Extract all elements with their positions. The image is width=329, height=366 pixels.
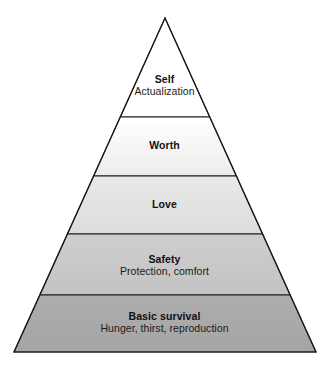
pyramid-tier-self[interactable] — [120, 18, 209, 117]
pyramid-tier-love[interactable] — [68, 176, 263, 234]
pyramid-tier-worth[interactable] — [94, 117, 237, 176]
pyramid-tier-safety[interactable] — [40, 234, 290, 295]
pyramid-diagram — [0, 0, 329, 366]
pyramid-tier-basic-survival[interactable] — [14, 295, 316, 352]
hierarchy-of-needs-pyramid: Self Actualization Worth Love Safety Pro… — [0, 0, 329, 366]
